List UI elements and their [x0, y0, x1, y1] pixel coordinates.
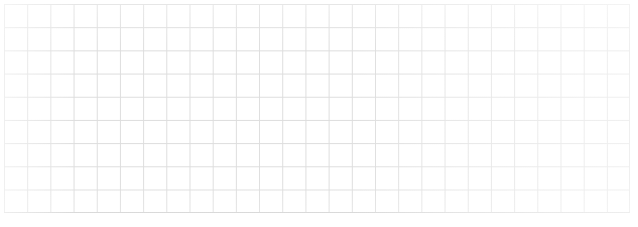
- sheet-content-text: [4, 4, 630, 213]
- grid-paper-sheet: [0, 0, 638, 227]
